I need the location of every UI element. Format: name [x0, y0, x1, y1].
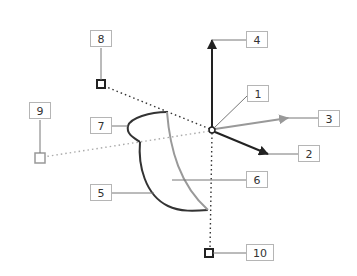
- ref-square-10: [205, 249, 213, 257]
- projection-lines: [43, 86, 212, 249]
- callout-10: 10: [246, 244, 274, 261]
- callout-8: 8: [90, 30, 112, 47]
- ref-square-9: [35, 153, 45, 163]
- callout-7: 7: [90, 117, 112, 134]
- arrow-2-down-right: [215, 132, 268, 154]
- callout-4: 4: [246, 31, 268, 48]
- callout-9: 9: [29, 102, 51, 119]
- curve-6: [167, 112, 208, 210]
- curve-7: [128, 112, 167, 142]
- callout-3: 3: [318, 110, 340, 127]
- callout-1: 1: [247, 85, 269, 102]
- diagram-canvas: [0, 0, 357, 276]
- ref-square-8: [97, 80, 105, 88]
- callout-5: 5: [90, 184, 112, 201]
- curved-shape: [128, 112, 208, 211]
- callout-2: 2: [298, 145, 320, 162]
- callout-6: 6: [246, 171, 268, 188]
- arrow-3-right: [215, 118, 288, 129]
- leader-lines: [40, 40, 318, 253]
